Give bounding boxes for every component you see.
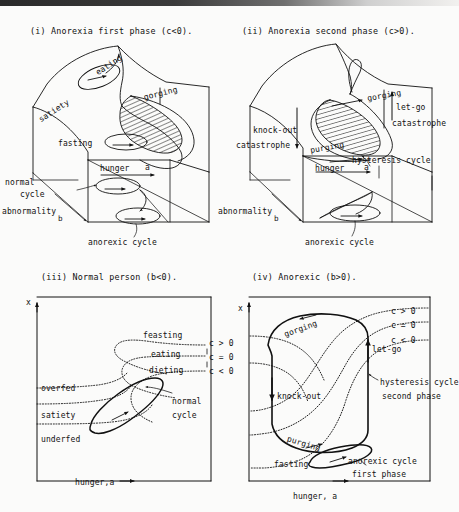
panel-iv-label-c-lt: c < 0 [391,336,416,345]
panel-i-label-normal: normal [5,178,35,187]
panel-iii-label-normal: normal [172,397,202,406]
panel-iv-label-hysteresis-2: second phase [382,392,441,401]
panel-iv-curves [250,308,428,468]
panel-iii-label-c-eq: c = 0 [209,353,234,362]
panel-ii-caption: (ii) Anorexia second phase (c>0). [242,26,415,36]
panel-iv-label-knock-out: knock-out [277,392,321,401]
panel-iii-label-satiety: satiety [41,411,75,420]
panel-i-caption: (i) Anorexia first phase (c<0). [30,26,193,36]
panel-iii-label-c-lt: c < 0 [209,367,234,376]
panel-iii-label-eating: eating [151,350,181,359]
panel-iv-axis-x: x [238,304,243,313]
panel-iv-label-anorexic-1: anorexic cycle [348,457,417,466]
panel-ii-label-hunger: hunger [315,164,345,173]
panel-iii-axis-x: x [26,298,31,307]
panel-ii-label-let-go: let-go [396,103,426,112]
panel-ii-label-hunger-a: a [364,163,369,172]
panel-iv-caption: (iv) Anorexic (b>0). [252,272,357,282]
panel-ii-label-abnormality: abnormality [218,207,272,216]
panel-ii-label-catastrophe-right: catastrophe [392,119,446,128]
panel-i-label-hunger-a: a [145,163,150,172]
panel-iv-label-fasting: fasting [274,460,308,469]
panel-ii-label-knock-out: knock-out [253,126,297,135]
panel-ii-label-catastrophe-left: catastrophe [236,141,290,150]
panel-ii-label-anorexic-cycle: anorexic cycle [305,238,374,247]
panel-i-label-hunger: hunger [100,164,130,173]
panel-i-label-abnormality: abnormality [2,207,56,216]
panel-iv-label-anorexic-2: first phase [352,470,406,479]
panel-iii-caption: (iii) Normal person (b<0). [41,272,177,282]
panel-ii-label-abnormality-b: b [274,214,279,223]
panel-i-label-abnormality-b: b [58,214,63,223]
panel-i-label-fasting: fasting [58,139,92,148]
panel-iii-label-overfed: overfed [41,384,75,393]
panel-iv-axis-hunger: hunger, a [293,492,337,501]
panel-iii-label-dieting: dieting [149,366,183,375]
panel-i-label-cycle: cycle [20,190,45,199]
panel-iv-label-hysteresis-1: hysteresis cycle [380,378,459,387]
panel-iii-axis-hunger: hunger,a [75,478,114,487]
panel-iv-label-c-gt: c > 0 [391,307,416,316]
panel-iii-label-feasting: feasting [143,331,182,340]
panel-i-label-anorexic-cycle: anorexic cycle [88,238,157,247]
panel-iii-label-c-gt: c > 0 [209,339,234,348]
figure-sheet: (i) Anorexia first phase (c<0). eating s… [0,0,459,512]
panel-iii-label-cycle: cycle [172,411,197,420]
panel-iv-label-let-go: let-go [372,345,402,354]
panel-iv-label-c-eq: c = 0 [391,321,416,330]
panel-iii-label-underfed: underfed [41,435,80,444]
